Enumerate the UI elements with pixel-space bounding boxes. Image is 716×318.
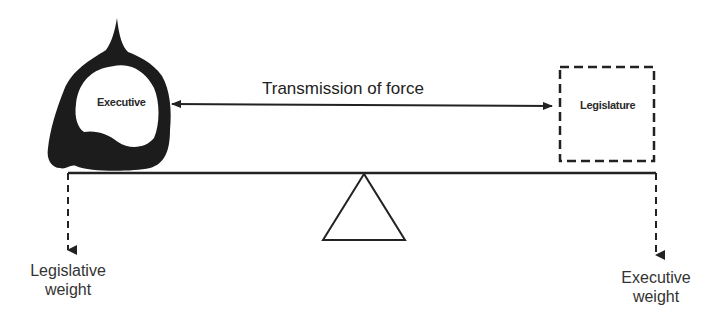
legislative-weight-label: Legislative weight (18, 261, 118, 299)
legislature-label: Legislature (580, 99, 635, 111)
executive-weight-line1: Executive (608, 268, 704, 287)
legislative-weight-line1: Legislative (18, 261, 118, 280)
executive-weight-line2: weight (608, 287, 704, 306)
executive-weight-label: Executive weight (608, 268, 704, 306)
executive-shape (48, 18, 171, 171)
executive-label: Executive (97, 96, 146, 108)
transmission-label: Transmission of force (262, 79, 424, 99)
legislative-weight-line2: weight (18, 280, 118, 299)
transmission-arrow (172, 104, 552, 106)
fulcrum-triangle (323, 174, 405, 240)
legislature-box (560, 67, 654, 161)
